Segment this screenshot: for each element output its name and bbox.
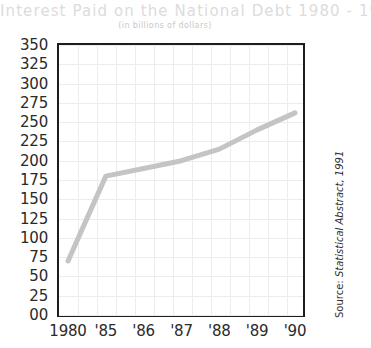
y-axis-tick-label: 175	[20, 173, 48, 188]
x-axis-tick-label: '87	[170, 322, 193, 340]
series-polyline	[68, 113, 295, 261]
source-prefix: Source:	[334, 277, 345, 318]
x-axis-labels: 1980'85'86'87'88'89'90	[57, 322, 305, 344]
chart-container: Interest Paid on the National Debt 1980 …	[0, 0, 371, 348]
x-axis-tick-label: '85	[95, 322, 118, 340]
x-axis-tick-label: '89	[246, 322, 269, 340]
x-axis-tick-label: '86	[132, 322, 155, 340]
chart-title: Interest Paid on the National Debt 1980 …	[0, 2, 330, 20]
plot-area	[57, 43, 305, 317]
y-axis-tick-label: 100	[20, 231, 48, 246]
y-axis-tick-label: 350	[20, 38, 48, 53]
y-axis-tick-label: 150	[20, 192, 48, 207]
y-axis-tick-label: 250	[20, 115, 48, 130]
x-axis-tick-label: '90	[284, 322, 307, 340]
y-axis-tick-label: 75	[29, 250, 48, 265]
y-axis-tick-label: 300	[20, 77, 48, 92]
y-axis-tick-label: 00	[29, 308, 48, 323]
source-note: Source: Statistical Abstract, 1991	[334, 118, 345, 318]
data-series-line	[59, 45, 303, 315]
y-axis-tick-label: 200	[20, 154, 48, 169]
y-axis-tick-label: 25	[29, 289, 48, 304]
y-axis-tick-label: 50	[29, 269, 48, 284]
x-axis-tick-label: 1980	[49, 322, 86, 340]
y-axis-tick-label: 225	[20, 134, 48, 149]
gridline-horizontal	[59, 315, 303, 316]
y-axis-labels: 3503253002752502252001751501251007550250…	[0, 43, 52, 317]
y-axis-tick-label: 275	[20, 96, 48, 111]
source-citation: Statistical Abstract, 1991	[334, 151, 345, 277]
y-axis-tick-label: 325	[20, 57, 48, 72]
y-axis-tick-label: 125	[20, 212, 48, 227]
x-axis-tick-label: '88	[208, 322, 231, 340]
chart-subtitle: (in billions of dollars)	[0, 21, 330, 30]
